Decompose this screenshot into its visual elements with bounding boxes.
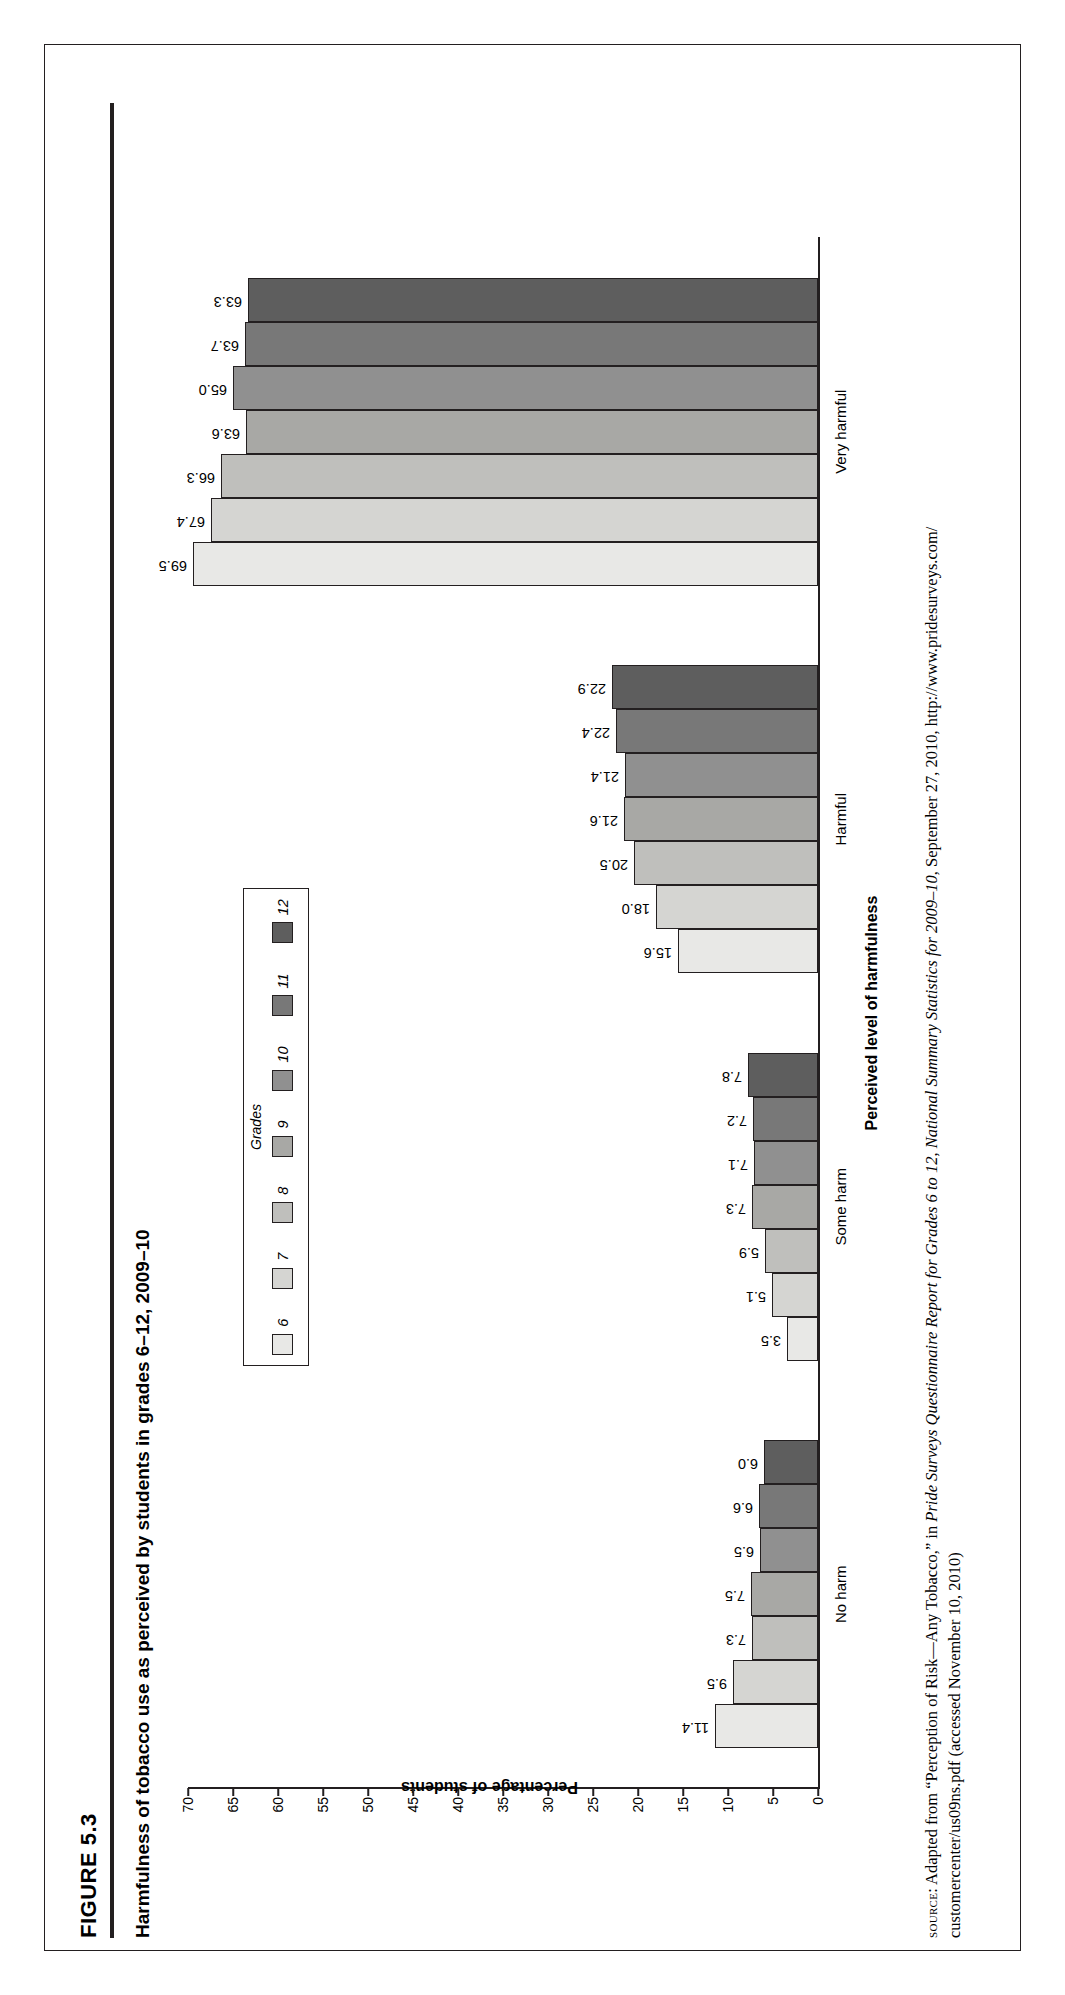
- bar: [758, 1484, 817, 1528]
- bar: [753, 1096, 818, 1140]
- bar-value-label: 6.0: [737, 1456, 757, 1472]
- bar-value-label: 15.6: [643, 945, 671, 961]
- source-line1-b: , September 27, 2010, http://www.pridesu…: [922, 526, 941, 875]
- x-axis-category-label: Very harmful: [832, 389, 849, 473]
- y-axis-tick-mark: [547, 1788, 549, 1796]
- bar: [192, 541, 818, 585]
- source-note: source: Adapted from “Perception of Risk…: [920, 108, 967, 1938]
- bar-value-label: 66.3: [187, 469, 215, 485]
- bar-value-label: 22.4: [582, 725, 610, 741]
- bar-value-label: 3.5: [760, 1332, 780, 1348]
- y-axis-tick-mark: [322, 1788, 324, 1796]
- bar: [715, 1704, 818, 1748]
- bar-value-label: 6.5: [733, 1544, 753, 1560]
- bar: [754, 1140, 818, 1184]
- bar-value-label: 7.5: [724, 1588, 744, 1604]
- bar-group-no-harm: 11.49.57.37.56.56.66.0No harm: [188, 1440, 818, 1748]
- y-axis-tick-mark: [727, 1788, 729, 1796]
- x-axis-category-label: Harmful: [832, 792, 849, 845]
- y-axis-tick-mark: [367, 1788, 369, 1796]
- bar-value-label: 7.2: [727, 1112, 747, 1128]
- bar-value-label: 63.3: [214, 293, 242, 309]
- bar: [750, 1572, 818, 1616]
- bar: [233, 365, 818, 409]
- bar-value-label: 69.5: [158, 557, 186, 573]
- bar: [772, 1272, 818, 1316]
- bar-value-label: 65.0: [198, 381, 226, 397]
- bar: [611, 665, 817, 709]
- bar-value-label: 18.0: [621, 901, 649, 917]
- bar: [633, 841, 818, 885]
- source-prefix: source: [924, 1892, 940, 1937]
- bar-value-label: 7.3: [726, 1632, 746, 1648]
- bar: [248, 277, 818, 321]
- bar-value-label: 63.7: [210, 337, 238, 353]
- bar: [752, 1184, 818, 1228]
- y-axis-tick-mark: [817, 1788, 819, 1796]
- figure-number: FIGURE 5.3: [76, 1813, 102, 1938]
- bar-value-label: 11.4: [682, 1720, 709, 1736]
- bar: [244, 321, 817, 365]
- bar-value-label: 5.9: [738, 1244, 758, 1260]
- bar: [211, 497, 818, 541]
- bar-value-label: 5.1: [745, 1288, 765, 1304]
- y-axis-tick-mark: [592, 1788, 594, 1796]
- bar-value-label: 21.4: [591, 769, 619, 785]
- figure-title: Harmfulness of tobacco use as perceived …: [132, 1229, 154, 1938]
- bar-value-label: 67.4: [177, 513, 205, 529]
- bar: [623, 797, 817, 841]
- bar-group-harmful: 15.618.020.521.621.422.422.9Harmful: [188, 665, 818, 973]
- bar: [759, 1528, 818, 1572]
- plot-area: Percentage of students 05101520253035404…: [188, 238, 818, 1788]
- bar: [625, 753, 818, 797]
- bar-value-label: 22.9: [577, 681, 605, 697]
- source-line1-a: : Adapted from “Perception of Risk—Any T…: [922, 1521, 941, 1892]
- y-axis-tick-mark: [412, 1788, 414, 1796]
- source-line1-italic: Pride Surveys Questionnaire Report for G…: [922, 875, 941, 1522]
- bar-value-label: 21.6: [589, 813, 617, 829]
- bar-value-label: 63.6: [211, 425, 239, 441]
- bar-value-label: 7.1: [727, 1156, 747, 1172]
- bar: [786, 1316, 818, 1360]
- bar: [732, 1660, 818, 1704]
- y-axis-tick-mark: [187, 1788, 189, 1796]
- y-axis-tick-mark: [772, 1788, 774, 1796]
- bar: [752, 1616, 818, 1660]
- bar-value-label: 6.6: [732, 1500, 752, 1516]
- bar-value-label: 7.3: [726, 1200, 746, 1216]
- bar: [221, 453, 818, 497]
- y-axis-tick-mark: [232, 1788, 234, 1796]
- bar: [764, 1440, 818, 1484]
- rotated-figure-canvas: FIGURE 5.3 Harmfulness of tobacco use as…: [58, 58, 1008, 1938]
- bar-value-label: 9.5: [706, 1676, 726, 1692]
- x-axis-category-label: Some harm: [832, 1167, 849, 1245]
- bar: [616, 709, 818, 753]
- y-axis-tick-mark: [457, 1788, 459, 1796]
- source-line2: customercenter/us09ns.pdf (accessed Nove…: [945, 1552, 964, 1938]
- figure-page-frame: FIGURE 5.3 Harmfulness of tobacco use as…: [44, 44, 1021, 1951]
- y-axis-tick-mark: [502, 1788, 504, 1796]
- y-axis-tick-mark: [277, 1788, 279, 1796]
- bar-value-label: 7.8: [721, 1068, 741, 1084]
- x-axis-title: Perceived level of harmfulness: [863, 238, 881, 1788]
- bar-group-some-harm: 3.55.15.97.37.17.27.8Some harm: [188, 1052, 818, 1360]
- y-axis-tick-mark: [682, 1788, 684, 1796]
- bar: [245, 409, 817, 453]
- bar-group-very-harmful: 69.567.466.363.665.063.763.3Very harmful: [188, 277, 818, 585]
- y-axis-tick-mark: [637, 1788, 639, 1796]
- bar: [656, 885, 818, 929]
- bar: [747, 1052, 817, 1096]
- header-rule: [110, 103, 114, 1938]
- bar-value-label: 20.5: [599, 857, 627, 873]
- bar: [764, 1228, 817, 1272]
- bar: [677, 929, 817, 973]
- x-axis-category-label: No harm: [832, 1565, 849, 1623]
